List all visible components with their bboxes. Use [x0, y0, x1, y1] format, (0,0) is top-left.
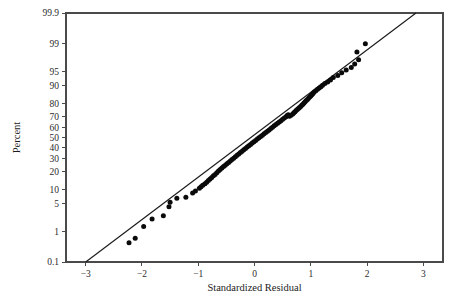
data-point [363, 41, 368, 46]
y-tick-label: 40 [50, 143, 60, 153]
y-tick-label: 60 [50, 123, 60, 133]
y-tick-label: 80 [50, 99, 60, 109]
data-point [161, 213, 166, 218]
y-tick-label: 50 [50, 133, 60, 143]
data-point [356, 57, 361, 62]
y-tick-label: 70 [50, 112, 60, 122]
y-tick-label: 0.1 [47, 257, 59, 267]
y-tick-label: 5 [54, 199, 59, 209]
data-point [344, 68, 349, 73]
data-point [127, 240, 132, 245]
x-axis-ticks: −3−2−10123 [81, 262, 426, 279]
y-tick-label: 99 [50, 39, 60, 49]
y-tick-label: 30 [50, 154, 60, 164]
plot-canvas: 0.115102030405060708090959999.9−3−2−1012… [0, 0, 463, 299]
reference-line [86, 13, 416, 262]
data-point [168, 200, 173, 205]
y-tick-label: 10 [50, 185, 60, 195]
x-tick-label: −3 [81, 269, 91, 279]
data-point [331, 75, 336, 80]
data-point [150, 217, 155, 222]
data-point [141, 224, 146, 229]
data-point [339, 70, 344, 75]
data-point [133, 236, 138, 241]
x-tick-label: −2 [137, 269, 147, 279]
y-tick-label: 20 [50, 167, 60, 177]
x-tick-label: 0 [252, 269, 257, 279]
y-tick-label: 99.9 [42, 8, 59, 18]
y-axis-ticks: 0.115102030405060708090959999.9 [42, 8, 66, 267]
data-point [166, 204, 171, 209]
data-point-group [127, 41, 368, 245]
data-point [183, 195, 188, 200]
x-tick-label: 3 [421, 269, 426, 279]
plot-frame [66, 13, 443, 262]
y-tick-label: 1 [54, 227, 59, 237]
x-tick-label: 1 [308, 269, 313, 279]
x-tick-label: −1 [193, 269, 203, 279]
data-point [352, 61, 357, 66]
y-tick-label: 90 [50, 81, 60, 91]
data-point [174, 196, 179, 201]
y-tick-label: 95 [50, 67, 60, 77]
y-axis-title: Percent [11, 122, 22, 154]
normal-probability-plot-figure: 0.115102030405060708090959999.9−3−2−1012… [0, 0, 463, 299]
x-tick-label: 2 [365, 269, 370, 279]
data-point [354, 50, 359, 55]
x-axis-title: Standardized Residual [207, 282, 301, 293]
